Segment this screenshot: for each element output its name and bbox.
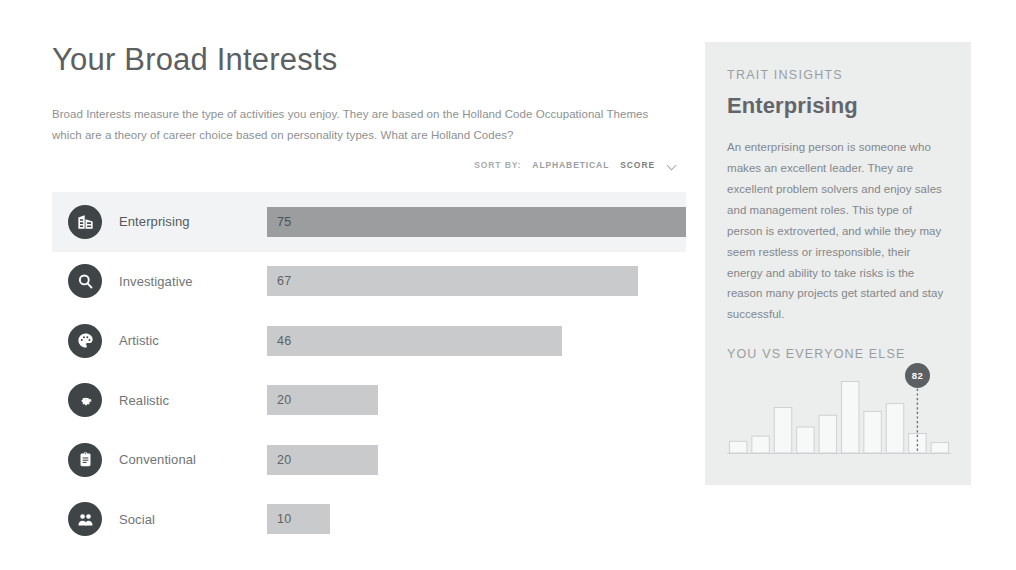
score-bar-track: 20 bbox=[267, 445, 686, 475]
interest-name: Social bbox=[119, 512, 267, 527]
list-item[interactable]: Investigative 67 bbox=[52, 252, 686, 312]
histogram-bar bbox=[819, 416, 836, 454]
magnifier-icon bbox=[68, 264, 102, 298]
interest-name: Investigative bbox=[119, 274, 267, 289]
histogram-bar bbox=[752, 436, 769, 453]
interest-list: Enterprising 75 Investigative 67 bbox=[52, 192, 686, 549]
broad-interests-section: Your Broad Interests Broad Interests mea… bbox=[52, 42, 677, 146]
intro-paragraph: Broad Interests measure the type of acti… bbox=[52, 104, 665, 147]
score-bar: 75 bbox=[267, 207, 686, 237]
score-value: 20 bbox=[277, 393, 291, 407]
office-building-icon bbox=[68, 205, 102, 239]
score-bar-track: 10 bbox=[267, 504, 686, 534]
score-value: 67 bbox=[277, 274, 291, 288]
score-bar-track: 75 bbox=[267, 207, 686, 237]
interest-name: Realistic bbox=[119, 393, 267, 408]
trait-insights-panel: TRAIT INSIGHTS Enterprising An enterpris… bbox=[705, 42, 971, 485]
people-icon bbox=[68, 502, 102, 536]
score-value: 75 bbox=[277, 215, 291, 229]
score-value: 10 bbox=[277, 512, 291, 526]
histogram-bar bbox=[841, 382, 858, 454]
panel-trait-title: Enterprising bbox=[727, 93, 949, 119]
list-item[interactable]: Artistic 46 bbox=[52, 311, 686, 371]
list-item[interactable]: Realistic 20 bbox=[52, 371, 686, 431]
interest-name: Enterprising bbox=[119, 214, 267, 229]
histogram-bar bbox=[931, 443, 948, 453]
list-item[interactable]: Conventional 20 bbox=[52, 430, 686, 490]
palette-icon bbox=[68, 324, 102, 358]
score-bar: 20 bbox=[267, 385, 378, 415]
score-bar-track: 67 bbox=[267, 266, 686, 296]
score-bar-track: 46 bbox=[267, 326, 686, 356]
panel-description: An enterprising person is someone who ma… bbox=[727, 137, 949, 325]
score-value: 46 bbox=[277, 334, 291, 348]
holland-codes-link[interactable]: What are Holland Codes? bbox=[381, 129, 514, 141]
clipboard-icon bbox=[68, 443, 102, 477]
interest-name: Artistic bbox=[119, 333, 267, 348]
score-value: 20 bbox=[277, 453, 291, 467]
histogram-bar bbox=[886, 404, 903, 453]
sort-option-alphabetical[interactable]: ALPHABETICAL bbox=[532, 160, 609, 170]
score-bar-track: 20 bbox=[267, 385, 686, 415]
gear-icon bbox=[68, 383, 102, 417]
panel-kicker: TRAIT INSIGHTS bbox=[727, 68, 949, 82]
list-item[interactable]: Enterprising 75 bbox=[52, 192, 686, 252]
comparison-heading: YOU VS EVERYONE ELSE bbox=[727, 347, 949, 361]
interest-name: Conventional bbox=[119, 452, 267, 467]
sort-by-label: SORT BY: bbox=[474, 160, 521, 170]
histogram-bar bbox=[797, 427, 814, 453]
score-bar: 67 bbox=[267, 266, 638, 296]
histogram-bar bbox=[774, 408, 791, 454]
chevron-down-icon[interactable] bbox=[668, 161, 677, 170]
distribution-histogram: 82 bbox=[727, 371, 951, 479]
intro-text: Broad Interests measure the type of acti… bbox=[52, 108, 648, 141]
sort-option-score[interactable]: SCORE bbox=[620, 160, 655, 170]
page-title: Your Broad Interests bbox=[52, 42, 677, 78]
list-item[interactable]: Social 10 bbox=[52, 490, 686, 550]
score-bar: 46 bbox=[267, 326, 562, 356]
score-bar: 20 bbox=[267, 445, 378, 475]
score-bar: 10 bbox=[267, 504, 330, 534]
sort-bar: SORT BY: ALPHABETICAL SCORE bbox=[52, 160, 677, 170]
histogram-bar bbox=[864, 412, 881, 454]
histogram-bar bbox=[729, 442, 746, 454]
